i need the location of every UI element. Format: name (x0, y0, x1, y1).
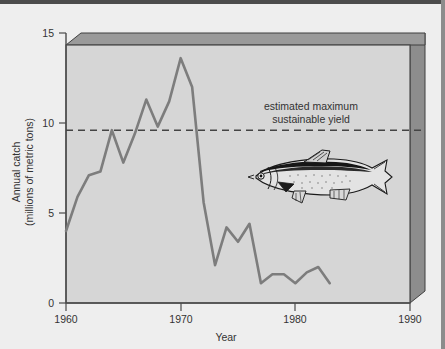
sustainable-yield-label-line2: sustainable yield (272, 113, 350, 125)
chart-figure: 0 5 10 15 1960 1970 1980 1990 Year Annua… (0, 0, 445, 349)
x-tick-label-1970: 1970 (169, 313, 193, 325)
x-tick-label-1960: 1960 (54, 313, 78, 325)
y-axis-title-line1: Annual catch (10, 141, 22, 202)
y-tick-label-15: 15 (42, 27, 54, 39)
y-tick-label-5: 5 (48, 207, 54, 219)
x-tick-label-1980: 1980 (283, 313, 307, 325)
x-tick-label-1990: 1990 (398, 313, 422, 325)
sustainable-yield-label-line1: estimated maximum (264, 100, 358, 112)
y-axis-title-line2: (millions of metric tons) (23, 118, 35, 226)
annual-catch-line-chart: 0 5 10 15 1960 1970 1980 1990 Year Annua… (0, 0, 445, 349)
x-axis-ticks (66, 303, 410, 311)
y-tick-label-10: 10 (42, 117, 54, 129)
box-right-face (410, 33, 425, 303)
y-tick-label-0: 0 (48, 297, 54, 309)
x-axis-title: Year (215, 331, 237, 343)
y-axis-ticks (59, 33, 66, 303)
box-top-face (66, 33, 425, 45)
